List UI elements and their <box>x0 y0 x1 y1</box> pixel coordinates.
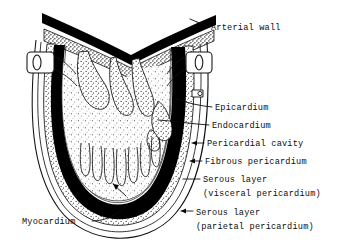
label-arterial-wall: Arterial wall <box>211 23 281 33</box>
label-serous-layer-parietal-line1: Serous layer <box>196 208 260 218</box>
label-pericardial-cavity: Pericardial cavity <box>207 139 303 149</box>
label-endocardium: Endocardium <box>212 121 271 131</box>
great-vessel-left <box>27 52 54 73</box>
vessel-nub-right <box>192 90 203 97</box>
label-serous-layer-visceral-line2: (visceral pericardium) <box>203 189 321 199</box>
great-vessel-right <box>186 52 212 73</box>
label-serous-layer-parietal-line2: (parietal pericardium) <box>196 222 314 232</box>
label-fibrous-pericardium: Fibrous pericardium <box>205 157 307 167</box>
label-serous-layer-visceral-line1: Serous layer <box>203 175 267 185</box>
diagram-canvas: Arterial wall Epicardium Endocardium Per… <box>0 0 343 247</box>
label-myocardium: Myocardium <box>22 217 76 227</box>
label-epicardium: Epicardium <box>215 103 269 113</box>
heart-wall-diagram: Arterial wall Epicardium Endocardium Per… <box>0 0 343 247</box>
